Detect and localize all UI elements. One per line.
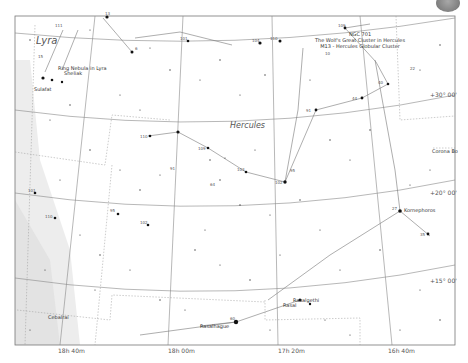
star-label-cebalrai: Cebalrai: [48, 314, 69, 320]
svg-text:22: 22: [410, 66, 416, 71]
svg-text:103: 103: [237, 167, 245, 172]
svg-text:102: 102: [275, 180, 283, 185]
svg-text:109: 109: [338, 23, 346, 28]
svg-text:15: 15: [38, 54, 44, 59]
constellation-name-hercules: Hercules: [230, 121, 265, 130]
svg-text:91: 91: [170, 166, 176, 171]
stars-faint: [29, 29, 440, 335]
svg-text:111: 111: [55, 23, 63, 28]
svg-text:60: 60: [230, 316, 236, 321]
svg-text:Rasalgethi: Rasalgethi: [293, 297, 319, 304]
star-chart[interactable]: 1111315 6101104 11010910 110109103 10295…: [0, 0, 468, 363]
svg-text:27: 27: [392, 206, 398, 211]
dec-grid: [15, 18, 455, 291]
svg-text:109: 109: [198, 146, 206, 151]
dec-label-30: +30° 00': [430, 91, 457, 98]
svg-text:102: 102: [140, 220, 148, 225]
svg-text:44: 44: [352, 96, 358, 101]
dso-label-ring-nebula: Ring Nebula in Lyra Sheliak: [58, 65, 107, 76]
svg-text:104: 104: [252, 38, 260, 43]
dec-label-15: +15° 00': [430, 277, 457, 284]
svg-text:95: 95: [110, 208, 116, 213]
svg-text:6: 6: [135, 46, 138, 51]
svg-text:110: 110: [140, 134, 148, 139]
svg-text:101: 101: [28, 188, 36, 193]
ra-label-16h40m: 16h 40m: [388, 347, 415, 354]
svg-text:Rasal: Rasal: [283, 302, 297, 308]
ra-grid: [60, 16, 392, 345]
constellation-label-corona: Corona Bo: [432, 148, 458, 154]
svg-text:M13 - Hercules Globular Cluste: M13 - Hercules Globular Cluster: [320, 43, 400, 49]
svg-text:40: 40: [378, 80, 384, 85]
dso-label-ngc-block: NGC 701 The Wolf's Great Cluster in Herc…: [314, 31, 405, 49]
ra-label-18h00m: 18h 00m: [168, 347, 195, 354]
svg-text:64: 64: [210, 182, 216, 187]
star-label-rasalgethi: Rasalgethi Rasal: [283, 297, 319, 308]
svg-text:101: 101: [180, 36, 188, 41]
ra-label-18h40m: 18h 40m: [58, 347, 85, 354]
svg-text:91: 91: [306, 108, 312, 113]
star-labels: 1111315 6101104 11010910 110109103 10295…: [28, 11, 426, 321]
ra-label-17h20m: 17h 20m: [278, 347, 305, 354]
svg-text:95: 95: [290, 168, 296, 173]
star-label-rasalhague: Rasalhague: [200, 323, 229, 330]
star-label-kornephoros: Kornephoros: [404, 207, 436, 214]
svg-text:110: 110: [270, 36, 278, 41]
svg-text:13: 13: [105, 11, 111, 16]
stars-bright: [34, 15, 430, 324]
svg-text:110: 110: [45, 214, 53, 219]
star-label-sulafat: Sulafat: [34, 86, 52, 92]
constellation-name-lyra: Lyra: [36, 35, 57, 46]
svg-text:10: 10: [325, 51, 331, 56]
dec-label-20: +20° 00': [430, 189, 457, 196]
svg-text:Sheliak: Sheliak: [64, 70, 82, 76]
svg-text:35: 35: [420, 232, 426, 237]
